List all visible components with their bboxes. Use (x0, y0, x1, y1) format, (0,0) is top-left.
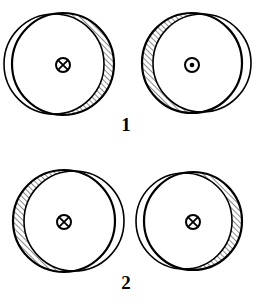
physics-diagram-svg: 12 (0, 0, 253, 304)
field-out-of-page-icon (185, 58, 199, 72)
circle-top-left (4, 11, 116, 117)
circle-bottom-left (11, 168, 124, 274)
field-into-page-icon (56, 58, 70, 72)
field-into-page-icon (186, 215, 200, 229)
field-into-page-icon (57, 215, 71, 229)
circle-bottom-right (136, 170, 244, 272)
row-label-1: 1 (121, 114, 131, 135)
figure-root: 12 (0, 0, 253, 304)
circle-top-right (140, 11, 251, 115)
row-label-2: 2 (121, 272, 131, 293)
